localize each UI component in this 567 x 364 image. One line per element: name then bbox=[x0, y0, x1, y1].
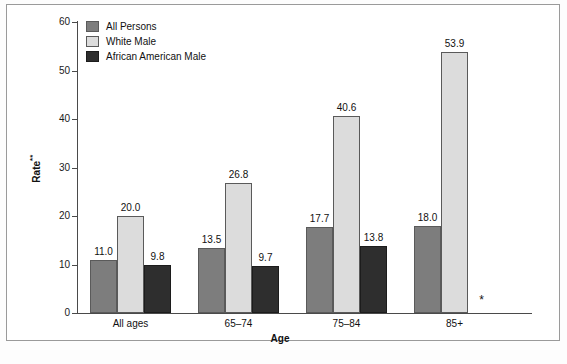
legend-item: White Male bbox=[86, 34, 206, 48]
figure: 0102030405060 Rate** 11.020.09.813.526.8… bbox=[0, 0, 567, 364]
bar bbox=[117, 216, 144, 313]
x-axis-group-label: 75–84 bbox=[286, 318, 407, 329]
bar bbox=[144, 265, 171, 313]
bar-value-label: 13.8 bbox=[354, 232, 393, 243]
y-axis-tick-label: 40 bbox=[44, 114, 70, 124]
suppressed-value-marker: * bbox=[468, 295, 495, 305]
y-axis-title: Rate** bbox=[28, 142, 41, 196]
y-axis-tick-label: 10 bbox=[44, 260, 70, 270]
plot-area: 11.020.09.813.526.89.717.740.613.818.053… bbox=[78, 22, 482, 313]
legend-item-label: All Persons bbox=[106, 21, 157, 32]
legend-swatch-icon bbox=[86, 51, 99, 62]
legend-item-label: White Male bbox=[106, 36, 156, 47]
x-axis-title: Age bbox=[78, 333, 482, 344]
y-axis-tick-label: 20 bbox=[44, 211, 70, 221]
bar-value-label: 9.8 bbox=[138, 251, 177, 262]
x-axis-group-label: All ages bbox=[70, 318, 191, 329]
legend-swatch-icon bbox=[86, 21, 99, 32]
legend-swatch-icon bbox=[86, 36, 99, 47]
y-axis-tick bbox=[72, 313, 78, 314]
bar bbox=[441, 52, 468, 313]
bar bbox=[360, 246, 387, 313]
bar bbox=[306, 227, 333, 313]
bar bbox=[90, 260, 117, 313]
bar-value-label: 40.6 bbox=[327, 102, 366, 113]
legend-item: African American Male bbox=[86, 49, 206, 63]
y-axis-tick-label: 60 bbox=[44, 17, 70, 27]
legend: All PersonsWhite MaleAfrican American Ma… bbox=[86, 19, 206, 64]
legend-item-label: African American Male bbox=[106, 51, 206, 62]
bar-value-label: 9.7 bbox=[246, 252, 285, 263]
y-axis-tick-label: 0 bbox=[44, 308, 70, 318]
legend-item: All Persons bbox=[86, 19, 206, 33]
bar bbox=[198, 248, 225, 313]
bar bbox=[225, 183, 252, 313]
bar-value-label: 20.0 bbox=[111, 202, 150, 213]
x-axis-group-label: 85+ bbox=[394, 318, 515, 329]
y-axis-tick-label: 50 bbox=[44, 66, 70, 76]
x-axis-line bbox=[77, 313, 532, 314]
bar-value-label: 53.9 bbox=[435, 38, 474, 49]
bar bbox=[414, 226, 441, 313]
bar bbox=[333, 116, 360, 313]
x-axis-group-label: 65–74 bbox=[178, 318, 299, 329]
bar bbox=[252, 266, 279, 313]
y-axis-title-wrap: Rate** bbox=[26, 140, 44, 210]
y-axis-tick-label: 30 bbox=[44, 163, 70, 173]
bar-value-label: 26.8 bbox=[219, 169, 258, 180]
